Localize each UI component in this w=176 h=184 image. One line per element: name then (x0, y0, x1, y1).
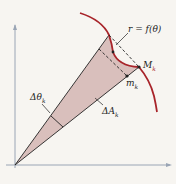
curve-label-pointer (116, 33, 128, 45)
curve-label: r = f(θ) (128, 24, 161, 34)
y-axis-arrow-icon (13, 24, 17, 30)
m-label: mk (126, 78, 138, 90)
point-M (137, 65, 140, 68)
dtheta-pointer (42, 104, 50, 113)
polar-area-diagram: r = f(θ) Mk mk Δθk ΔAk (0, 0, 176, 184)
dA-label: ΔAk (102, 106, 119, 118)
M-label: Mk (143, 60, 156, 72)
x-axis-arrow-icon (166, 163, 172, 167)
dtheta-label: Δθk (30, 92, 46, 104)
point-curve (112, 51, 115, 54)
